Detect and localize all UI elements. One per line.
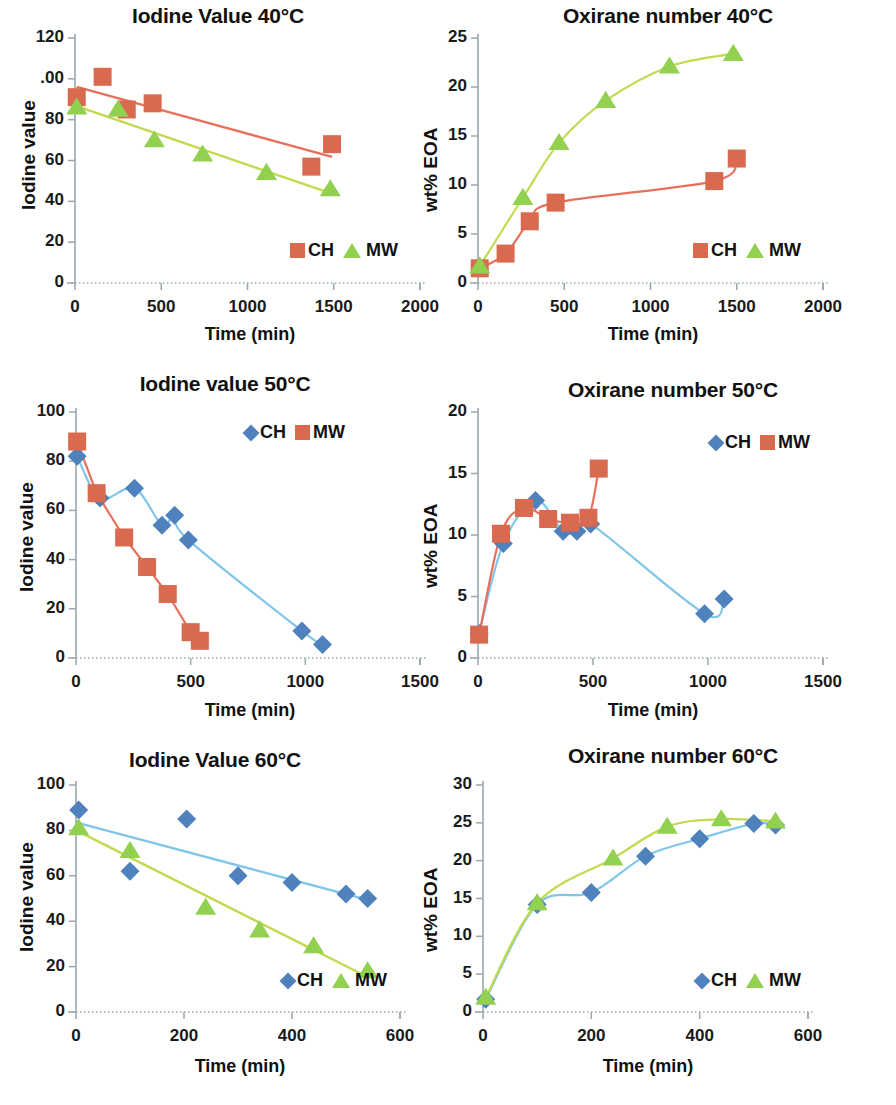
y-tick-label: 0 <box>458 647 467 667</box>
x-tick-label: 2000 <box>783 297 863 317</box>
y-tick-label: 15 <box>448 125 467 145</box>
data-point-MW <box>138 558 156 576</box>
data-point-MW <box>159 585 177 603</box>
square-marker-icon <box>295 425 310 440</box>
y-tick-label: 25 <box>453 812 472 832</box>
y-tick-label: 15 <box>448 463 467 483</box>
legend-entry-CH: CH <box>282 970 323 991</box>
x-tick-label: 0 <box>36 1026 116 1046</box>
x-tick-label: 0 <box>443 1026 523 1046</box>
legend-label: CH <box>297 970 323 991</box>
x-tick-label: 500 <box>524 297 604 317</box>
x-tick-label: 1500 <box>294 297 374 317</box>
data-point-CH <box>313 635 332 654</box>
diamond-marker-icon <box>243 424 260 441</box>
x-tick-label: 400 <box>252 1026 332 1046</box>
trendline-CH <box>77 87 332 157</box>
legend-label: CH <box>308 240 334 261</box>
x-axis-label: Time (min) <box>563 700 743 721</box>
data-point-MW <box>539 510 557 528</box>
legend-label: CH <box>711 970 737 991</box>
x-tick-label: 400 <box>660 1026 740 1046</box>
y-tick-label: 60 <box>46 499 65 519</box>
triangle-marker-icon <box>343 243 361 258</box>
legend-label: MW <box>778 432 810 453</box>
legend-entry-MW: MW <box>295 422 345 443</box>
data-point-CH <box>521 212 539 230</box>
chart-panel-iodine-40: Iodine Value 40°C 020406080.001200500100… <box>0 0 448 360</box>
chart-legend: CHMW <box>696 970 801 991</box>
data-point-MW <box>515 499 533 517</box>
plot-area <box>0 740 448 1105</box>
y-tick-label: 20 <box>46 956 65 976</box>
x-tick-label: 600 <box>360 1026 440 1046</box>
data-point-CH <box>705 172 723 190</box>
data-point-CH <box>497 245 515 263</box>
legend-label: CH <box>260 422 286 443</box>
x-tick-label: 1000 <box>208 297 288 317</box>
x-tick-label: 500 <box>151 672 231 692</box>
data-point-MW <box>68 433 86 451</box>
y-axis-label: Iodine value <box>16 842 38 952</box>
multi-panel-chart-figure: Iodine Value 40°C 020406080.001200500100… <box>0 0 896 1105</box>
trendline-CH <box>479 500 724 633</box>
triangle-marker-icon <box>332 973 350 988</box>
legend-label: MW <box>769 240 801 261</box>
chart-panel-oxirane-50: Oxirane number 50°C 05101520050010001500… <box>448 360 896 740</box>
data-point-MW <box>512 188 533 205</box>
data-point-CH <box>292 621 311 640</box>
x-tick-label: 0 <box>35 297 115 317</box>
legend-entry-MW: MW <box>760 432 810 453</box>
data-point-CH <box>695 604 714 623</box>
chart-panel-iodine-50: Iodine value 50°C 0204060801000500100015… <box>0 360 448 740</box>
y-tick-label: 80 <box>46 819 65 839</box>
chart-panel-oxirane-40: Oxirane number 40°C 05101520250500100015… <box>448 0 896 360</box>
data-point-MW <box>470 626 488 644</box>
data-point-CH <box>302 158 320 176</box>
trendline-CH <box>79 823 368 900</box>
data-point-MW <box>191 632 209 650</box>
diamond-marker-icon <box>708 434 725 451</box>
y-tick-label: 15 <box>453 888 472 908</box>
square-marker-icon <box>290 243 305 258</box>
y-tick-label: 0 <box>55 272 64 292</box>
x-tick-label: 0 <box>36 672 116 692</box>
legend-label: MW <box>313 422 345 443</box>
x-tick-label: 600 <box>768 1026 848 1046</box>
data-point-CH <box>715 589 734 608</box>
y-tick-label: 20 <box>46 598 65 618</box>
chart-legend: CHMW <box>290 240 398 261</box>
data-point-CH <box>690 829 709 848</box>
chart-legend: CHMW <box>282 970 387 991</box>
data-point-MW <box>603 848 624 865</box>
data-point-CH <box>358 889 377 908</box>
data-point-MW <box>144 130 165 147</box>
data-point-CH <box>144 94 162 112</box>
y-axis-label: wt% EOA <box>420 868 442 952</box>
y-tick-label: 60 <box>45 150 64 170</box>
data-point-CH <box>728 150 746 168</box>
y-tick-label: 5 <box>458 223 467 243</box>
data-point-MW <box>115 528 133 546</box>
y-tick-label: 80 <box>45 109 64 129</box>
x-tick-label: 1500 <box>783 672 863 692</box>
y-tick-label: 20 <box>448 401 467 421</box>
plot-area <box>448 740 896 1105</box>
square-marker-icon <box>760 435 775 450</box>
data-point-MW <box>249 920 270 937</box>
y-tick-label: 40 <box>46 549 65 569</box>
data-point-MW <box>303 936 324 953</box>
y-tick-label: 20 <box>45 231 64 251</box>
data-point-MW <box>256 163 277 180</box>
data-point-MW <box>68 818 89 835</box>
legend-label: MW <box>366 240 398 261</box>
y-tick-label: 0 <box>458 272 467 292</box>
data-point-CH <box>636 847 655 866</box>
x-axis-label: Time (min) <box>563 324 743 345</box>
y-axis-label: wt% EOA <box>420 504 442 588</box>
data-point-CH <box>121 862 140 881</box>
diamond-marker-icon <box>280 972 297 989</box>
x-axis-label: Time (min) <box>558 1056 738 1077</box>
data-point-MW <box>320 179 341 196</box>
data-point-MW <box>561 514 579 532</box>
